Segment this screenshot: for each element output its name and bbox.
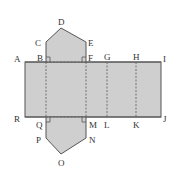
label-D: D — [58, 17, 65, 27]
label-P: P — [36, 135, 41, 145]
label-Q: Q — [36, 120, 43, 130]
label-G: G — [104, 52, 111, 62]
label-H: H — [133, 52, 140, 62]
lateral-faces-rectangle — [25, 62, 161, 117]
label-J: J — [163, 114, 167, 124]
label-K: K — [133, 120, 140, 130]
label-B: B — [37, 53, 43, 63]
label-A: A — [14, 54, 21, 64]
bottom-pentagon-face — [46, 117, 86, 154]
label-I: I — [163, 54, 166, 64]
label-E: E — [88, 38, 94, 48]
label-L: L — [104, 120, 110, 130]
top-pentagon-face — [46, 28, 86, 62]
prism-net-diagram: D C E A B F G H I R Q M L K J P N O — [0, 0, 177, 174]
label-N: N — [89, 135, 96, 145]
label-M: M — [89, 120, 97, 130]
label-R: R — [14, 114, 20, 124]
label-C: C — [35, 38, 41, 48]
label-O: O — [58, 158, 65, 168]
label-F: F — [88, 53, 93, 63]
